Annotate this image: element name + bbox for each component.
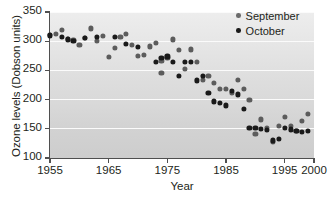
x-tick-label: 1955 — [30, 164, 70, 176]
dot-marker-black-icon — [236, 28, 241, 33]
legend-label: September — [246, 10, 300, 22]
y-tick-mark — [45, 11, 49, 12]
dot-marker-gray-icon — [236, 13, 241, 18]
x-tick-mark — [313, 159, 314, 163]
gridline — [50, 128, 314, 129]
x-tick-mark — [49, 159, 50, 163]
x-tick-mark — [167, 159, 168, 163]
legend-item: October — [236, 23, 324, 38]
x-tick-label: 1975 — [147, 164, 187, 176]
chart-legend: SeptemberOctober — [236, 8, 324, 38]
y-axis-title: Ozone levels (Dobson units) — [10, 6, 26, 166]
x-axis-spine — [49, 158, 315, 159]
x-axis-title: Year — [50, 180, 314, 192]
y-tick-label: 200 — [0, 92, 42, 104]
x-tick-label: 1965 — [89, 164, 129, 176]
gridline — [50, 99, 314, 100]
y-tick-label: 250 — [0, 62, 42, 74]
gridline — [50, 41, 314, 42]
x-tick-label: 2000 — [294, 164, 332, 176]
legend-label: October — [246, 25, 285, 37]
y-tick-mark — [45, 70, 49, 71]
x-tick-mark — [225, 159, 226, 163]
legend-item: September — [236, 8, 324, 23]
x-tick-mark — [108, 159, 109, 163]
y-tick-label: 100 — [0, 150, 42, 162]
y-tick-label: 350 — [0, 4, 42, 16]
y-tick-label: 150 — [0, 121, 42, 133]
x-tick-label: 1985 — [206, 164, 246, 176]
y-tick-mark — [45, 41, 49, 42]
y-tick-mark — [45, 99, 49, 100]
y-tick-mark — [45, 128, 49, 129]
x-tick-mark — [284, 159, 285, 163]
y-tick-label: 300 — [0, 33, 42, 45]
